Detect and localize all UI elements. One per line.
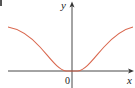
curve-line [8, 27, 133, 71]
y-axis-label: y [61, 0, 66, 11]
chart-area: y 0 x [0, 0, 135, 88]
origin-label: 0 [65, 75, 70, 86]
x-axis-label: x [127, 75, 132, 86]
corner-mark [0, 0, 2, 6]
